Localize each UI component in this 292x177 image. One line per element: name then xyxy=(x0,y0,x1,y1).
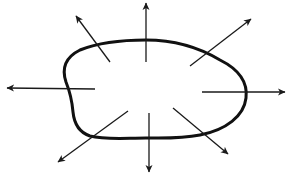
radiating-arrows-group xyxy=(7,3,285,172)
diagram-canvas xyxy=(0,0,292,177)
arrow-down-right-icon xyxy=(173,108,228,154)
diagram-svg xyxy=(0,0,292,177)
arrow-down-left-icon xyxy=(58,111,128,162)
arrow-left-icon xyxy=(7,88,95,89)
arrow-up-left-icon xyxy=(76,16,110,62)
